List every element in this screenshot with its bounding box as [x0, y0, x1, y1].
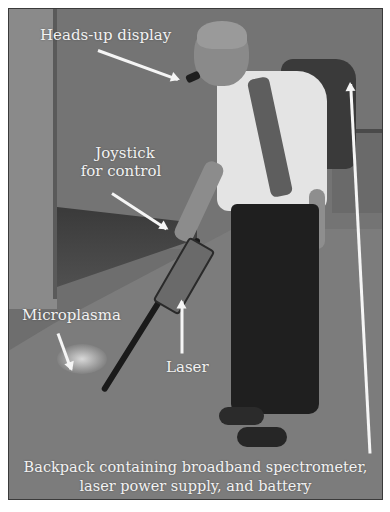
pants: [231, 204, 319, 414]
arrow-laser-icon: [181, 302, 184, 354]
left-wall: [9, 9, 57, 309]
hair: [197, 21, 247, 49]
label-backpack-line2: laser power supply, and battery: [8, 477, 383, 495]
annotated-photo: [8, 8, 383, 500]
label-joystick-line2: for control: [66, 162, 176, 180]
shoe: [237, 427, 287, 447]
label-laser: Laser: [166, 358, 209, 376]
label-microplasma: Microplasma: [22, 306, 121, 324]
label-heads-up-display: Heads-up display: [40, 26, 171, 44]
shoe: [219, 407, 264, 425]
label-backpack-line1: Backpack containing broadband spectromet…: [8, 458, 383, 476]
label-joystick-line1: Joystick: [80, 144, 170, 162]
